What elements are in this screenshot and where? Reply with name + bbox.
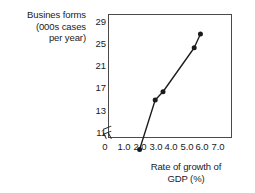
x-axis-title-line-2: GDP (%) bbox=[120, 173, 252, 185]
series-markers bbox=[137, 32, 203, 153]
data-point bbox=[192, 45, 197, 50]
data-point bbox=[153, 98, 158, 103]
data-point bbox=[161, 89, 166, 94]
data-point bbox=[198, 32, 203, 37]
chart-figure: Busines forms (000s cases per year) 29 2… bbox=[0, 0, 255, 193]
data-point bbox=[137, 147, 142, 152]
x-axis-title: Rate of growth of GDP (%) bbox=[120, 161, 252, 184]
x-axis-title-line-1: Rate of growth of bbox=[120, 161, 252, 173]
series-line bbox=[140, 34, 201, 150]
